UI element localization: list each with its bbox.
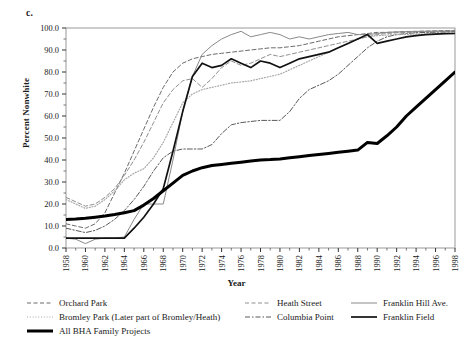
legend-item[interactable]: Columbia Point [244,310,348,324]
legend-item[interactable]: Franklin Hill Ave. [350,296,470,310]
x-axis-label: Year [0,278,473,288]
x-tick-label: 1962 [101,255,110,272]
x-tick-label: 1984 [315,254,324,272]
y-tick-label: 20.0 [44,200,59,209]
y-axis-label: Percent Nonwhite [21,43,31,183]
legend-swatch-icon [244,312,272,322]
y-tick-label: 100.0 [40,24,59,33]
legend-swatch-icon [350,312,378,322]
x-tick-label: 1976 [237,255,246,272]
legend-swatch-icon [244,298,272,308]
series-line-orchard-park [66,30,455,228]
x-tick-label: 1966 [140,255,149,272]
x-tick-label: 1970 [179,255,188,272]
x-tick-label: 1972 [198,255,207,272]
series-line-bromley-park-later-part-of-bromley-heath [66,34,455,209]
legend-column-right: Franklin Hill Ave.Franklin Field [350,296,470,324]
legend-item-label: Franklin Hill Ave. [383,298,448,308]
figure-panel-c: c. Percent Nonwhite Year 0.010.020.030.0… [0,0,473,352]
legend-column-middle: Heath StreetColumbia Point [244,296,348,324]
legend-item-label: Columbia Point [277,312,334,322]
legend-swatch-icon [350,298,378,308]
x-tick-label: 1992 [393,255,402,272]
legend-item[interactable]: Heath Street [244,296,348,310]
x-tick-label: 1990 [373,255,382,272]
series-group [66,30,455,243]
legend-item-label: Bromley Park (Later part of Bromley/Heat… [59,312,220,322]
y-tick-label: 60.0 [44,112,59,121]
y-tick-label: 30.0 [44,178,59,187]
y-tick-label: 80.0 [44,68,59,77]
x-tick-label: 1994 [412,254,421,272]
y-tick-label: 40.0 [44,156,59,165]
legend-item-label: Franklin Field [383,312,434,322]
x-tick-label: 1960 [81,255,90,272]
x-tick-label: 1964 [120,254,129,272]
x-tick-label: 1998 [451,255,460,272]
legend-swatch-icon [26,312,54,322]
x-tick-label: 1958 [62,255,71,272]
legend-swatch-icon [26,326,54,336]
legend-item-label: Heath Street [277,298,322,308]
x-tick-label: 1986 [334,255,343,272]
x-tick-label: 1968 [159,255,168,272]
x-tick-label: 1996 [432,255,441,272]
x-tick-label: 1988 [354,255,363,272]
y-tick-label: 50.0 [44,134,59,143]
legend-column-left: Orchard ParkBromley Park (Later part of … [26,296,266,338]
legend-item[interactable]: Orchard Park [26,296,266,310]
y-tick-label: 90.0 [44,46,59,55]
panel-label: c. [26,8,33,18]
x-tick-label: 1978 [257,255,266,272]
y-tick-label: 70.0 [44,90,59,99]
y-tick-label: 10.0 [44,222,59,231]
legend-item[interactable]: Bromley Park (Later part of Bromley/Heat… [26,310,266,324]
legend-item-label: All BHA Family Projects [59,326,150,336]
series-line-all-bha-family-projects [66,72,455,219]
y-tick-label: 0.0 [49,244,59,253]
legend-item-label: Orchard Park [59,298,107,308]
legend-swatch-icon [26,298,54,308]
legend-item[interactable]: All BHA Family Projects [26,324,266,338]
x-tick-label: 1980 [276,255,285,272]
x-tick-label: 1974 [218,254,227,272]
legend-item[interactable]: Franklin Field [350,310,470,324]
x-tick-label: 1982 [295,255,304,272]
chart-legend: Orchard ParkBromley Park (Later part of … [0,296,473,352]
series-line-franklin-field [66,34,455,239]
line-chart-plot: 0.010.020.030.040.050.060.070.080.090.01… [0,0,473,300]
